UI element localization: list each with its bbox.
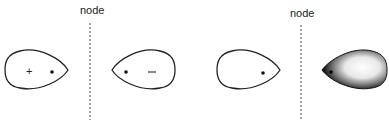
nucleus-dot — [329, 70, 333, 74]
lobe-1: + — [5, 50, 68, 89]
orbital-node-diagram: + node node — [0, 0, 389, 126]
plus-sign-icon: + — [26, 65, 32, 77]
node-label-1: node — [80, 5, 104, 16]
lobe-2 — [112, 50, 175, 89]
nucleus-dot — [124, 70, 128, 74]
nucleus-dot — [50, 70, 54, 74]
lobe-4 — [322, 50, 387, 89]
lobe-3 — [217, 50, 280, 89]
node-label-2: node — [290, 8, 314, 19]
diagram-graphic: + — [0, 0, 389, 126]
nucleus-dot — [261, 71, 265, 75]
